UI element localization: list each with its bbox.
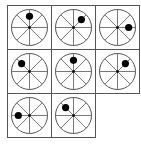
wheel-spoke bbox=[74, 103, 87, 116]
wheel-spoke bbox=[61, 72, 74, 85]
black-dot-icon bbox=[122, 60, 129, 67]
wheel-spoke bbox=[30, 28, 43, 41]
wheel-spoke bbox=[74, 28, 87, 41]
wheel-puzzle-grid bbox=[0, 0, 141, 149]
puzzle-cell bbox=[52, 50, 96, 94]
wheel-hub bbox=[116, 70, 119, 73]
wheel-hub bbox=[72, 26, 75, 29]
wheel-spoke bbox=[105, 72, 118, 85]
wheel-spoke bbox=[74, 72, 87, 85]
wheel-hub bbox=[28, 70, 31, 73]
puzzle-cell bbox=[8, 50, 52, 94]
wheel-spoke bbox=[30, 72, 43, 85]
wheel-spoke bbox=[105, 59, 118, 72]
wheel-spoke bbox=[17, 28, 30, 41]
black-dot-icon bbox=[62, 104, 69, 111]
wheel-spoke bbox=[30, 116, 43, 129]
puzzle-cell bbox=[96, 6, 140, 50]
wheel-spoke bbox=[105, 15, 118, 28]
wheel-hub bbox=[28, 26, 31, 29]
wheel-spoke bbox=[61, 15, 74, 28]
black-dot-icon bbox=[18, 60, 25, 67]
puzzle-cell bbox=[8, 94, 52, 138]
puzzle-cell bbox=[52, 6, 96, 50]
wheel-spoke bbox=[17, 72, 30, 85]
wheel-spoke bbox=[61, 116, 74, 129]
black-dot-icon bbox=[125, 24, 132, 31]
wheel-hub bbox=[72, 70, 75, 73]
wheel-spoke bbox=[61, 28, 74, 41]
black-dot-icon bbox=[26, 13, 33, 20]
wheel-spoke bbox=[30, 103, 43, 116]
black-dot-icon bbox=[15, 112, 22, 119]
wheel-spoke bbox=[118, 72, 131, 85]
puzzle-cell bbox=[52, 94, 96, 138]
wheel-spoke bbox=[74, 116, 87, 129]
wheel-spoke bbox=[105, 28, 118, 41]
black-dot-icon bbox=[70, 57, 77, 64]
wheel-hub bbox=[72, 114, 75, 117]
black-dot-icon bbox=[78, 16, 85, 23]
puzzle-cell bbox=[96, 50, 140, 94]
puzzle-cell bbox=[8, 6, 52, 50]
wheel-hub bbox=[28, 114, 31, 117]
wheel-spoke bbox=[30, 59, 43, 72]
wheel-hub bbox=[116, 26, 119, 29]
